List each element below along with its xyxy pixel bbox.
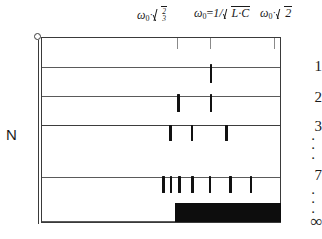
y-axis-line (38, 40, 39, 224)
x-tick-label-center: ω0=1/L·C (194, 6, 250, 21)
spectral-line (210, 94, 213, 112)
y-tick-label-1: 1 (300, 59, 322, 74)
spectral-line (177, 94, 180, 112)
y-axis-ellipsis-lower: ... (307, 185, 319, 213)
x-tick-label-right: ω0·2 (260, 6, 292, 21)
spectral-line (178, 176, 181, 193)
y-axis-ellipsis-upper: ... (307, 131, 319, 159)
x-axis-tick-right (274, 38, 275, 49)
row-separator-2 (42, 96, 280, 97)
row-separator-7 (42, 177, 280, 178)
x-axis-tick-left (177, 38, 178, 49)
radical-sign-center: L·C (224, 6, 251, 19)
x-axis-tick-center (210, 38, 211, 49)
continuum-band (175, 203, 281, 222)
spectral-line (250, 176, 253, 193)
spectral-line (191, 176, 194, 193)
plot-area (41, 37, 281, 223)
spectral-line (170, 176, 173, 193)
y-tick-label-2: 2 (300, 90, 322, 105)
radical-sign-left: 23 (154, 6, 167, 21)
row-separator-3 (42, 125, 280, 126)
radical-sign-right: 2 (277, 6, 292, 19)
spectral-line (210, 64, 213, 83)
y-tick-label-infinity: ∞ (300, 213, 322, 230)
spectral-line (209, 176, 212, 193)
y-axis-origin-marker (34, 33, 41, 40)
row-separator-1 (42, 67, 280, 68)
spectral-line (225, 125, 228, 141)
spectral-line (229, 176, 232, 193)
spectral-line (162, 176, 165, 193)
spectrum-figure: ω0·23 ω0=1/L·C ω0·2 N 1 2 3 ... 7 ... ∞ (0, 0, 322, 239)
x-tick-label-left: ω0·23 (137, 6, 167, 23)
spectral-line (191, 125, 194, 141)
y-axis-title: N (6, 126, 17, 143)
spectral-line (169, 125, 172, 141)
